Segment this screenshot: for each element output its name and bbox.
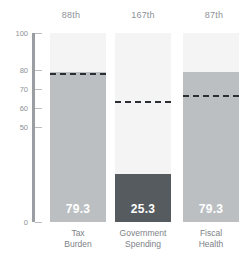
category-label-fiscal-health: Fiscal Health <box>173 228 249 250</box>
category-label-fiscal-health-line1: Fiscal <box>173 228 249 239</box>
y-axis-tick-0 <box>35 222 42 223</box>
y-axis-label-60: 60 <box>4 104 28 113</box>
reference-marker-government-spending <box>115 101 171 103</box>
y-axis-label-70: 70 <box>4 85 28 94</box>
category-label-government-spending: Government Spending <box>105 228 181 250</box>
category-label-government-spending-line1: Government <box>105 228 181 239</box>
y-axis-tick-60 <box>35 108 42 109</box>
y-axis-tick-100 <box>35 33 42 34</box>
bar-fill-government-spending: 25.3 <box>115 174 171 222</box>
y-axis-label-80: 80 <box>4 66 28 75</box>
bar-value-tax-burden: 79.3 <box>50 202 106 216</box>
reference-marker-fiscal-health <box>183 95 239 97</box>
category-label-fiscal-health-line2: Health <box>173 239 249 250</box>
score-bar-chart: 88th 167th 87th 100 80 70 60 50 0 79.3 <box>0 0 252 257</box>
bar-value-government-spending: 25.3 <box>115 202 171 216</box>
category-label-government-spending-line2: Spending <box>105 239 181 250</box>
y-axis-tick-70 <box>35 89 42 90</box>
bar-fill-tax-burden: 79.3 <box>50 72 106 222</box>
plot-area: 100 80 70 60 50 0 79.3 25.3 79.3 <box>0 0 252 257</box>
bar-value-fiscal-health: 79.3 <box>183 202 239 216</box>
reference-marker-tax-burden <box>50 73 106 75</box>
bar-column-fiscal-health: 79.3 <box>183 33 239 222</box>
y-axis-label-0: 0 <box>4 218 28 227</box>
y-axis-tick-50 <box>35 127 42 128</box>
y-axis-label-50: 50 <box>4 123 28 132</box>
y-axis-label-100: 100 <box>4 29 28 38</box>
bar-column-tax-burden: 79.3 <box>50 33 106 222</box>
bar-column-government-spending: 25.3 <box>115 33 171 222</box>
y-axis-tick-80 <box>35 70 42 71</box>
